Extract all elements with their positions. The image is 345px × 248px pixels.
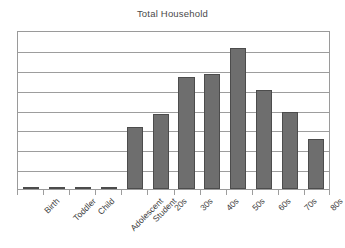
x-axis-ticks <box>17 190 330 195</box>
x-axis-tick <box>329 190 330 195</box>
bar-slot <box>199 32 225 189</box>
x-axis-tick <box>200 190 201 195</box>
x-axis-label: 40s <box>224 196 241 213</box>
bar-slot <box>303 32 329 189</box>
x-axis-tick <box>304 190 305 195</box>
plot-area <box>17 31 330 190</box>
x-axis-tick <box>95 190 96 195</box>
x-axis-labels: BirthToddlerChildAdolescentStudent20s30s… <box>17 196 330 248</box>
x-axis-tick <box>278 190 279 195</box>
x-axis-label: Child <box>95 196 116 217</box>
bar-slot <box>277 32 303 189</box>
bar[interactable] <box>23 187 39 189</box>
bar-slot <box>44 32 70 189</box>
bar[interactable] <box>101 187 117 189</box>
bar[interactable] <box>230 48 246 189</box>
chart-title: Total Household <box>0 8 345 19</box>
bar[interactable] <box>127 127 143 189</box>
bar-slot <box>251 32 277 189</box>
bars-layer <box>18 32 329 189</box>
x-axis-tick <box>43 190 44 195</box>
x-axis-tick <box>17 190 18 195</box>
bar-slot <box>174 32 200 189</box>
x-axis-tick <box>147 190 148 195</box>
bar-slot <box>96 32 122 189</box>
bar[interactable] <box>256 90 272 189</box>
x-axis-label: 80s <box>328 196 345 213</box>
x-axis-label: Birth <box>42 196 61 215</box>
bar[interactable] <box>153 114 169 189</box>
x-axis-tick <box>121 190 122 195</box>
x-axis-tick <box>252 190 253 195</box>
x-axis-label: 70s <box>302 196 319 213</box>
bar-slot <box>148 32 174 189</box>
x-axis-label: 50s <box>250 196 267 213</box>
bar-slot <box>70 32 96 189</box>
bar-slot <box>225 32 251 189</box>
bar[interactable] <box>308 139 324 189</box>
chart-screenshot: Total Household BirthToddlerChildAdolesc… <box>0 0 345 248</box>
bar[interactable] <box>178 77 194 189</box>
x-axis-tick <box>69 190 70 195</box>
bar-slot <box>122 32 148 189</box>
x-axis-tick <box>174 190 175 195</box>
bar[interactable] <box>75 187 91 189</box>
x-axis-label: Toddler <box>72 196 99 223</box>
x-axis-tick <box>226 190 227 195</box>
bar[interactable] <box>204 74 220 189</box>
x-axis-label: 60s <box>276 196 293 213</box>
x-axis-label: 30s <box>198 196 215 213</box>
bar[interactable] <box>49 187 65 189</box>
bar-slot <box>18 32 44 189</box>
bar[interactable] <box>282 112 298 189</box>
